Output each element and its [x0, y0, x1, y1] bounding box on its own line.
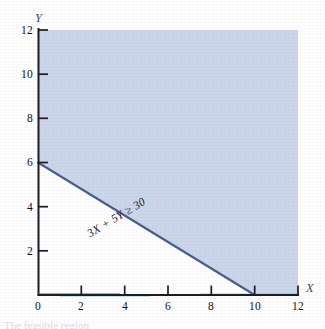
figure-caption-fragment: The feasible region — [4, 320, 89, 329]
y-tick-label-6: 6 — [27, 156, 33, 168]
y-tick-label-12: 12 — [21, 24, 33, 36]
y-tick-label-2: 2 — [27, 245, 33, 257]
y-axis-name-label: Y — [35, 11, 42, 26]
x-tick-label-0: 0 — [35, 300, 41, 312]
x-tick-label-6: 6 — [165, 300, 171, 312]
x-tick-label-2: 2 — [78, 300, 84, 312]
x-axis-name-label: X — [306, 281, 314, 296]
y-tick-label-4: 4 — [27, 201, 33, 213]
x-tick-label-12: 12 — [292, 300, 304, 312]
x-tick-label-4: 4 — [122, 300, 128, 312]
y-tick-label-10: 10 — [21, 68, 33, 80]
x-tick-label-10: 10 — [249, 300, 261, 312]
x-tick-label-8: 8 — [208, 300, 214, 312]
feasible-region-shading — [38, 30, 298, 295]
y-tick-label-8: 8 — [27, 112, 33, 124]
